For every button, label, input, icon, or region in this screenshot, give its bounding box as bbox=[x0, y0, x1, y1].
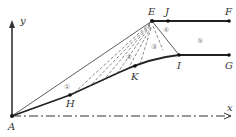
region-5: ⑤ bbox=[197, 37, 203, 45]
label-E: E bbox=[147, 6, 156, 17]
line-AE bbox=[12, 21, 152, 116]
label-H: H bbox=[65, 98, 75, 109]
label-A: A bbox=[7, 121, 15, 132]
region-3: ③ bbox=[151, 43, 157, 51]
expansion-fan bbox=[74, 23, 163, 93]
region-2: ② bbox=[126, 53, 132, 61]
region-1: ① bbox=[64, 83, 70, 91]
label-J: J bbox=[163, 6, 170, 17]
label-F: F bbox=[224, 6, 233, 17]
label-G: G bbox=[225, 60, 233, 71]
label-y: y bbox=[19, 15, 26, 26]
region-4: ④ bbox=[163, 26, 169, 34]
label-K: K bbox=[130, 71, 139, 82]
label-I: I bbox=[176, 60, 182, 71]
wall-AHKI bbox=[12, 55, 179, 116]
y-axis-arrow-icon bbox=[9, 20, 15, 28]
nozzle-flow-diagram: y x A E J F H K I G ① ② ③ ④ ⑤ bbox=[0, 0, 236, 137]
label-x: x bbox=[227, 102, 233, 113]
